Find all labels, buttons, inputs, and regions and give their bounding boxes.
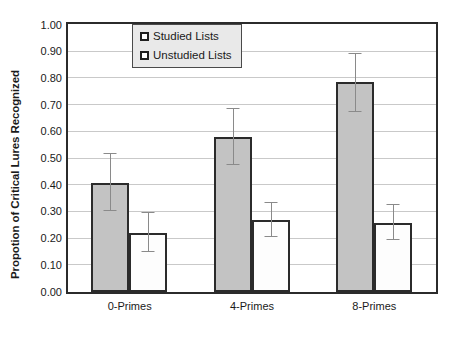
gridline [68, 77, 436, 78]
gridline [68, 51, 436, 52]
error-bar [355, 53, 356, 110]
x-axis-tick-label: 8-Primes [352, 300, 396, 312]
y-axis-tick-label: 1.00 [26, 19, 62, 31]
gridline [68, 131, 436, 132]
y-axis-tick-label: 0.10 [26, 259, 62, 271]
y-axis-tick-label: 0.90 [26, 45, 62, 57]
error-bar-cap [104, 210, 117, 211]
bar-chart: Propotion of Critical Lures Recognized 0… [0, 0, 464, 349]
error-bar [393, 204, 394, 239]
error-bar-cap [142, 212, 155, 213]
error-bar-cap [264, 236, 277, 237]
legend-item-label: Studied Lists [153, 30, 219, 42]
error-bar [148, 212, 149, 251]
x-axis-tick-label: 0-Primes [108, 300, 152, 312]
y-axis-tick-label: 0.60 [26, 125, 62, 137]
gridline [68, 158, 436, 159]
y-axis-tick-label: 0.70 [26, 99, 62, 111]
bar [336, 82, 374, 292]
legend-item-label: Unstudied Lists [153, 49, 232, 61]
error-bar-cap [348, 53, 361, 54]
gridline [68, 104, 436, 105]
legend-item-unstudied: Unstudied Lists [140, 49, 232, 61]
error-bar-cap [348, 111, 361, 112]
legend-swatch-icon [140, 32, 149, 41]
error-bar-cap [264, 202, 277, 203]
y-axis-tick-label: 0.40 [26, 179, 62, 191]
error-bar-cap [104, 153, 117, 154]
error-bar-cap [226, 164, 239, 165]
error-bar-cap [386, 239, 399, 240]
error-bar-cap [386, 204, 399, 205]
y-axis-tick-label: 0.30 [26, 205, 62, 217]
y-axis-tick-label: 0.80 [26, 72, 62, 84]
error-bar-cap [226, 108, 239, 109]
legend-swatch-icon [140, 51, 149, 60]
error-bar [233, 108, 234, 164]
y-axis-tick-label: 0.00 [26, 286, 62, 298]
plot-area [66, 22, 438, 294]
x-axis-tick-label: 4-Primes [230, 300, 274, 312]
legend-item-studied: Studied Lists [140, 30, 232, 42]
plot-inner [68, 24, 436, 292]
y-axis-tick-label: 0.20 [26, 232, 62, 244]
error-bar-cap [142, 251, 155, 252]
error-bar [271, 202, 272, 237]
y-axis-tick-labels: 0.000.100.200.300.400.500.600.700.800.90… [26, 22, 62, 294]
y-axis-tick-label: 0.50 [26, 152, 62, 164]
chart-legend: Studied Lists Unstudied Lists [132, 24, 242, 68]
x-axis-tick-labels: 0-Primes4-Primes8-Primes [66, 300, 438, 320]
error-bar [110, 153, 111, 209]
